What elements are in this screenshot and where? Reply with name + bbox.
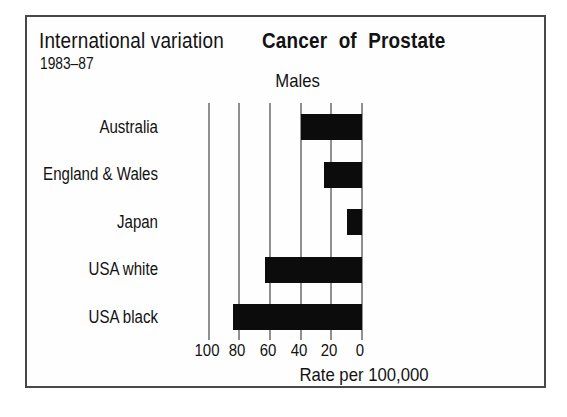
chart-title: Cancer of Prostate <box>262 28 445 54</box>
period-label: 1983–87 <box>40 55 94 74</box>
x-axis-label: Rate per 100,000 <box>298 364 430 386</box>
category-label: USA black <box>29 307 158 328</box>
category-label: USA white <box>29 259 158 280</box>
bar <box>301 114 362 140</box>
annotation-title: International variation <box>39 28 224 54</box>
bar <box>347 209 362 235</box>
category-label: Australia <box>29 117 158 138</box>
gridline <box>208 103 210 340</box>
category-label: England & Wales <box>29 164 158 185</box>
chart-subtitle: Males <box>247 70 348 92</box>
category-label: Japan <box>29 212 158 233</box>
bar <box>265 257 362 283</box>
bar <box>233 304 362 330</box>
chart-figure: International variation 1983–87 Cancer o… <box>0 0 567 417</box>
x-tick-label: 0 <box>341 341 380 361</box>
bar <box>324 162 362 188</box>
